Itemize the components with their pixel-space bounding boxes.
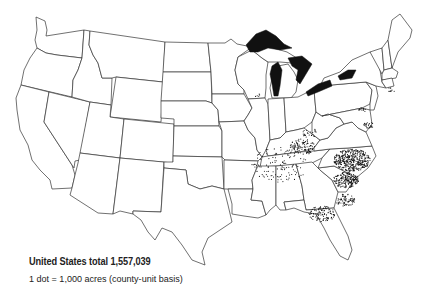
legend-total: United States total 1,557,039 [29,256,178,267]
state-arizona [70,153,120,214]
state-outlines [16,14,412,265]
state-indiana [268,98,286,140]
state-colorado [120,119,174,163]
state-nebraska [161,101,219,126]
map-legend: United States total 1,557,039 1 dot = 1,… [29,256,191,284]
state-new-mexico [113,158,164,214]
legend-dot-scale: 1 dot = 1,000 acres (county-unit basis) [29,273,183,284]
state-maine [388,14,412,68]
state-florida [284,200,352,260]
state-north-dakota [163,42,211,72]
state-kansas [173,126,222,157]
us-dot-density-map [0,0,433,297]
state-south-dakota [161,72,212,103]
state-wyoming [110,77,163,122]
